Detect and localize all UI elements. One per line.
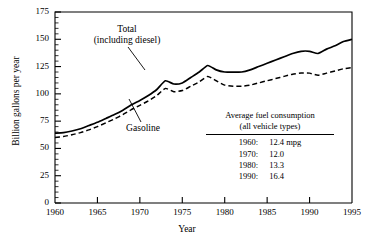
- legend-row: 1980:13.3: [239, 160, 302, 171]
- legend-row-value: 12.4 mpg: [269, 137, 301, 148]
- y-tick-label: 175: [19, 6, 49, 16]
- legend-divider: [206, 134, 334, 135]
- legend-row: 1970:12.0: [239, 148, 302, 159]
- y-tick-label: 75: [19, 115, 49, 125]
- x-tick-label: 1995: [332, 207, 372, 217]
- y-tick-label: 150: [19, 33, 49, 43]
- x-tick-label: 1970: [120, 207, 160, 217]
- total-series-label-line1: Total: [72, 24, 182, 34]
- fuel-consumption-chart: Billion gallons per year Year 0255075100…: [0, 0, 374, 241]
- legend-row: 1960:12.4 mpg: [239, 137, 302, 148]
- y-tick-label: 125: [19, 61, 49, 71]
- total-leader-line: [128, 47, 145, 70]
- legend-row-value: 16.4: [269, 171, 301, 182]
- x-tick-label: 1975: [162, 207, 202, 217]
- legend-row-year: 1970:: [239, 148, 269, 159]
- legend-row: 1990:16.4: [239, 171, 302, 182]
- fuel-consumption-legend: Average fuel consumption (all vehicle ty…: [206, 110, 334, 183]
- x-tick-label: 1960: [35, 207, 75, 217]
- legend-header-line1: Average fuel consumption: [206, 110, 334, 121]
- x-tick-label: 1990: [290, 207, 330, 217]
- legend-row-year: 1990:: [239, 171, 269, 182]
- x-tick-label: 1980: [205, 207, 245, 217]
- total-series-label-line2: (including diesel): [72, 35, 182, 45]
- y-tick-label: 50: [19, 142, 49, 152]
- legend-row-year: 1960:: [239, 137, 269, 148]
- x-tick-label: 1965: [77, 207, 117, 217]
- legend-row-value: 12.0: [269, 148, 301, 159]
- y-tick-label: 100: [19, 88, 49, 98]
- y-tick-label: 25: [19, 170, 49, 180]
- gasoline-series-label: Gasoline: [117, 123, 169, 133]
- legend-table: 1960:12.4 mpg1970:12.01980:13.31990:16.4: [239, 137, 302, 183]
- y-tick-label: 0: [19, 197, 49, 207]
- legend-row-value: 13.3: [269, 160, 301, 171]
- legend-header-line2: (all vehicle types): [206, 121, 334, 132]
- x-axis-title: Year: [0, 224, 374, 234]
- legend-row-year: 1980:: [239, 160, 269, 171]
- x-tick-label: 1985: [247, 207, 287, 217]
